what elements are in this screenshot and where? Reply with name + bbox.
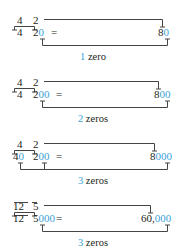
bottom-factor-a: 12: [13, 213, 24, 224]
example-2: 4 2 4 200 = 800 2 zeros: [0, 62, 186, 124]
top-factor-a: 4: [17, 77, 23, 88]
example-4: 12 5 12 5000 = 60,000 3 zeros: [0, 186, 186, 248]
top-factor-b: 2: [33, 139, 39, 150]
product: 60,000: [141, 213, 171, 224]
bottom-factor-b: 200: [33, 151, 50, 162]
equals-sign: =: [56, 89, 62, 100]
product: 8000: [150, 151, 172, 162]
top-factor-b: 5: [33, 201, 39, 212]
zero-count-label: 3 zeros: [0, 237, 186, 248]
zero-count-label: 2 zeros: [0, 113, 186, 124]
bottom-factor-b: 20: [33, 27, 44, 38]
top-factor-a: 4: [17, 15, 23, 26]
top-factor-b: 2: [33, 15, 39, 26]
top-factor-a: 12: [13, 201, 24, 212]
bottom-factor-b: 200: [33, 89, 50, 100]
product: 800: [154, 89, 171, 100]
bottom-factor-a: 40: [13, 151, 24, 162]
top-factor-b: 2: [33, 77, 39, 88]
zero-count-label: 3 zeros: [0, 175, 186, 186]
top-factor-a: 4: [17, 139, 23, 150]
bottom-factor-a: 4: [17, 27, 23, 38]
bottom-factor-a: 4: [17, 89, 23, 100]
equals-sign: =: [51, 27, 57, 38]
bottom-factor-b: 5000: [33, 213, 55, 224]
example-3: 4 2 40 200 = 8000 3 zeros: [0, 124, 186, 186]
equals-sign: =: [56, 213, 62, 224]
product: 80: [158, 27, 169, 38]
equals-sign: =: [56, 151, 62, 162]
zero-count-label: 1 zero: [0, 51, 186, 62]
example-1: 4 2 4 20 = 80 1 zero: [0, 0, 186, 62]
